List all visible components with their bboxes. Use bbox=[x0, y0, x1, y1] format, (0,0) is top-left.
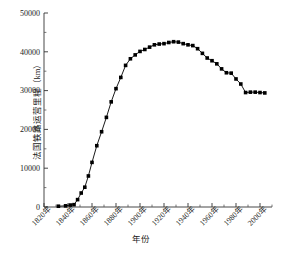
data-point bbox=[133, 53, 137, 57]
data-point bbox=[201, 52, 205, 56]
y-tick-label: 40000 bbox=[20, 48, 40, 57]
data-point bbox=[263, 91, 267, 95]
x-axis-title: 年份 bbox=[0, 232, 281, 244]
data-point bbox=[162, 42, 166, 46]
data-point bbox=[181, 42, 185, 46]
y-tick-label: 20000 bbox=[20, 125, 40, 134]
chart-figure: 法国铁路运营里程（km） 010000200003000040000500001… bbox=[0, 0, 281, 259]
x-tick-label: 1820年 bbox=[29, 204, 53, 228]
data-point bbox=[69, 203, 73, 207]
y-tick-label: 10000 bbox=[20, 164, 40, 173]
data-point bbox=[191, 44, 195, 48]
x-tick-label: 1860年 bbox=[77, 204, 101, 228]
data-point bbox=[215, 62, 219, 66]
axis-spines bbox=[44, 13, 272, 207]
x-tick-label: 1940年 bbox=[173, 204, 197, 228]
data-point bbox=[124, 64, 128, 68]
data-point bbox=[229, 71, 233, 75]
line-chart-plot: 010000200003000040000500001820年1840年1860… bbox=[0, 0, 281, 259]
data-point bbox=[76, 198, 80, 202]
data-point bbox=[129, 57, 133, 61]
data-point bbox=[109, 100, 113, 104]
data-point bbox=[90, 161, 94, 165]
x-tick-label: 1960年 bbox=[197, 204, 221, 228]
data-point bbox=[100, 130, 104, 134]
data-point bbox=[114, 87, 118, 91]
data-point bbox=[186, 43, 190, 47]
data-point bbox=[138, 50, 142, 54]
data-point bbox=[64, 204, 68, 208]
y-tick-label: 30000 bbox=[20, 86, 40, 95]
data-point bbox=[177, 40, 181, 44]
x-tick-label: 1980年 bbox=[221, 204, 245, 228]
data-point bbox=[172, 40, 176, 44]
x-tick-label: 1880年 bbox=[101, 204, 125, 228]
data-point bbox=[95, 144, 99, 148]
data-point bbox=[157, 42, 161, 46]
y-tick-label: 50000 bbox=[20, 9, 40, 18]
data-point bbox=[225, 71, 229, 75]
data-point bbox=[87, 174, 91, 178]
series-line-0 bbox=[58, 42, 264, 207]
data-point bbox=[244, 91, 248, 95]
data-point bbox=[234, 77, 238, 81]
data-point bbox=[258, 91, 262, 95]
data-point bbox=[153, 43, 157, 47]
data-point bbox=[196, 47, 200, 51]
data-point bbox=[105, 116, 109, 120]
data-point bbox=[249, 90, 253, 94]
data-point bbox=[239, 82, 243, 86]
data-point bbox=[57, 204, 61, 208]
x-tick-label: 1920年 bbox=[149, 204, 173, 228]
data-point bbox=[210, 59, 214, 63]
data-point bbox=[220, 67, 224, 71]
data-point bbox=[72, 203, 76, 207]
x-tick-label: 2000年 bbox=[245, 204, 269, 228]
data-point bbox=[83, 185, 87, 189]
data-point bbox=[79, 191, 83, 195]
data-point bbox=[167, 41, 171, 45]
x-tick-label: 1900年 bbox=[125, 204, 149, 228]
data-point bbox=[119, 76, 123, 80]
data-point bbox=[205, 56, 209, 60]
data-point bbox=[143, 48, 147, 52]
data-point bbox=[253, 90, 257, 94]
data-point bbox=[148, 45, 152, 49]
